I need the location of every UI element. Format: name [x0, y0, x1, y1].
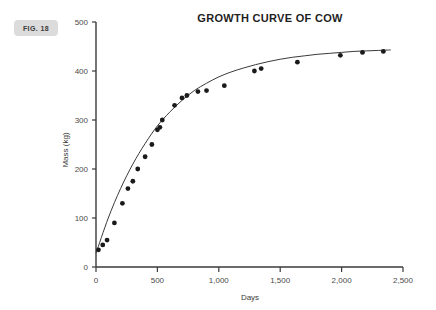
data-point: [100, 243, 105, 248]
growth-curve-chart: 0100200300400500 Mass (kg) 05001,0001,50…: [0, 0, 436, 310]
fitted-curve-line: [96, 50, 391, 253]
data-point: [381, 49, 386, 54]
data-point: [160, 118, 165, 123]
data-point: [204, 88, 209, 93]
x-axis-tick-labels: 05001,0001,5002,0002,500: [94, 276, 414, 285]
y-axis-tick-label: 0: [84, 263, 89, 272]
x-axis-tick-label: 1,000: [209, 276, 230, 285]
data-point: [143, 154, 148, 159]
x-axis-group: 05001,0001,5002,0002,500 Days: [94, 267, 414, 302]
x-axis-title: Days: [241, 293, 259, 302]
data-point: [222, 83, 227, 88]
figure-container: FIG. 18 GROWTH CURVE OF COW 010020030040…: [0, 0, 436, 310]
data-point: [184, 93, 189, 98]
x-axis-tick-label: 1,500: [270, 276, 291, 285]
y-axis-tick-labels: 0100200300400500: [75, 18, 89, 272]
data-point: [360, 50, 365, 55]
data-point: [112, 221, 117, 226]
data-point: [252, 69, 257, 74]
data-point: [130, 179, 135, 184]
x-axis-tick-label: 500: [151, 276, 165, 285]
x-axis-ticks: [96, 267, 403, 272]
data-point: [105, 238, 110, 243]
x-axis-tick-label: 2,500: [393, 276, 414, 285]
data-point: [157, 125, 162, 130]
data-point: [135, 167, 140, 172]
data-point: [96, 247, 101, 252]
data-point: [180, 96, 185, 101]
data-point: [259, 66, 264, 71]
y-axis-title: Mass (kg): [61, 132, 70, 167]
y-axis-tick-label: 100: [75, 214, 89, 223]
y-axis-tick-label: 400: [75, 67, 89, 76]
x-axis-tick-label: 0: [94, 276, 99, 285]
data-point: [126, 186, 131, 191]
data-point: [338, 53, 343, 58]
data-point: [149, 142, 154, 147]
data-point: [172, 103, 177, 108]
data-point: [196, 89, 201, 94]
data-point: [120, 201, 125, 206]
y-axis-tick-label: 200: [75, 165, 89, 174]
data-point: [295, 60, 300, 65]
y-axis-group: 0100200300400500 Mass (kg): [61, 18, 96, 272]
y-axis-tick-label: 300: [75, 116, 89, 125]
data-point-markers: [96, 49, 386, 252]
x-axis-tick-label: 2,000: [332, 276, 353, 285]
y-axis-tick-label: 500: [75, 18, 89, 27]
